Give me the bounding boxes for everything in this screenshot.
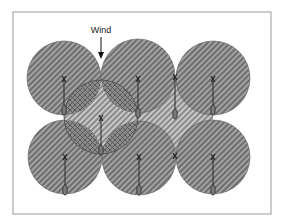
droplet-icon: [136, 108, 140, 118]
droplet-icon: [211, 105, 215, 115]
sprinkler-coverage-diagram: Wind: [0, 0, 285, 222]
wind-label: Wind: [91, 25, 112, 35]
droplet-icon: [173, 109, 177, 119]
droplet-icon: [211, 185, 215, 195]
droplet-icon: [63, 185, 67, 195]
droplet-icon: [137, 185, 141, 195]
droplet-icon: [99, 145, 103, 155]
droplet-icon: [62, 105, 66, 115]
